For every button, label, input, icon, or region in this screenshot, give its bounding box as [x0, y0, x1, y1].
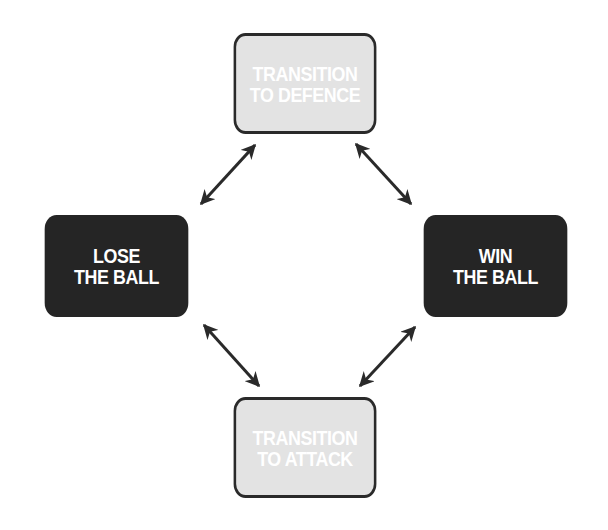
node-transition-to-attack: TRANSITION TO ATTACK — [234, 397, 377, 498]
node-label-line-1: TRANSITION — [253, 63, 358, 84]
node-lose-the-ball: LOSE THE BALL — [45, 215, 189, 317]
node-label-line-1: TRANSITION — [253, 427, 358, 448]
arrow-bottom-left — [204, 325, 259, 386]
node-label-line-1: LOSE — [93, 245, 140, 266]
arrow-top-left — [201, 145, 255, 204]
node-label-line-2: THE BALL — [74, 266, 159, 287]
node-win-the-ball: WIN THE BALL — [424, 215, 568, 317]
node-label-line-1: WIN — [479, 245, 512, 266]
node-label-line-2: THE BALL — [453, 266, 538, 287]
node-label-line-2: TO DEFENCE — [250, 84, 360, 105]
arrow-top-right — [356, 144, 411, 204]
node-transition-to-defence: TRANSITION TO DEFENCE — [234, 33, 377, 134]
node-label-line-2: TO ATTACK — [257, 448, 353, 469]
arrow-bottom-right — [360, 327, 415, 386]
